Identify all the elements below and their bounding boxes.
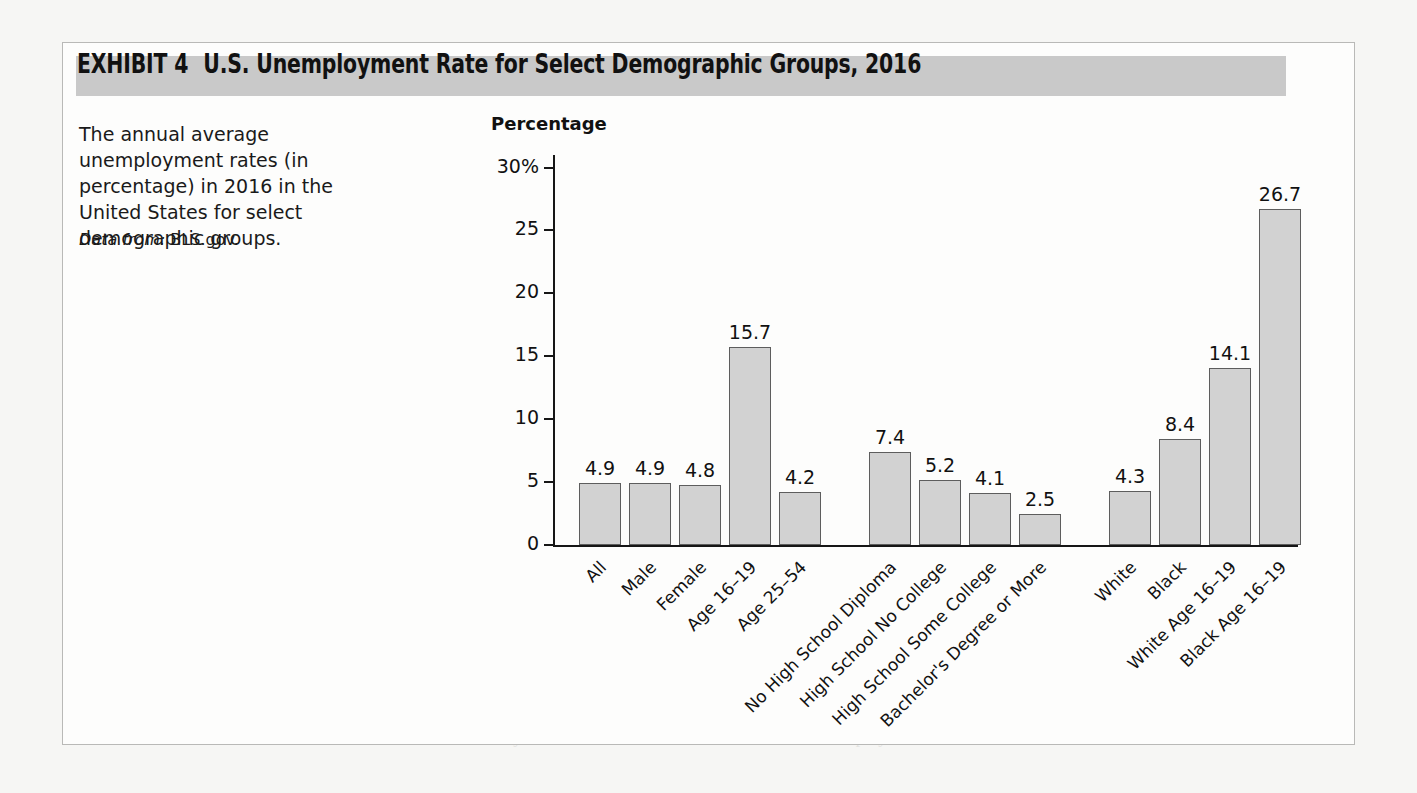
bar-value-label: 4.3 <box>1095 465 1165 487</box>
x-axis-category-label: Black <box>1143 557 1190 604</box>
bar-value-label: 2.5 <box>1005 488 1075 510</box>
bar <box>1159 439 1201 545</box>
y-axis-tick <box>544 544 553 546</box>
y-axis-tick-label: 15 <box>477 343 539 365</box>
source-value: BLS.gov. <box>170 230 238 249</box>
y-axis-tick-label: 30% <box>477 155 539 177</box>
bar-value-label: 8.4 <box>1145 413 1215 435</box>
y-axis-tick-label: 25 <box>477 217 539 239</box>
y-axis-tick-label: 10 <box>477 406 539 428</box>
x-axis-category-label: Male <box>618 557 661 600</box>
bar-value-label: 4.1 <box>955 467 1025 489</box>
bar <box>779 492 821 545</box>
bar <box>1109 491 1151 545</box>
exhibit-source: Data from: BLS.gov. <box>79 230 359 249</box>
bar <box>1019 514 1061 545</box>
y-axis-tick-label: 20 <box>477 280 539 302</box>
bar <box>1259 209 1301 545</box>
exhibit-title: EXHIBIT 4U.S. Unemployment Rate for Sele… <box>77 48 921 79</box>
y-axis-tick-label: 5 <box>477 469 539 491</box>
bar-value-label: 15.7 <box>715 321 785 343</box>
bar-value-label: 14.1 <box>1195 342 1265 364</box>
y-axis-title: Percentage <box>491 113 607 134</box>
x-axis-line <box>553 545 1298 547</box>
bar-value-label: 7.4 <box>855 426 925 448</box>
bar <box>1209 368 1251 545</box>
y-axis-tick <box>544 481 553 483</box>
y-axis-tick <box>544 167 553 169</box>
exhibit-title-text: U.S. Unemployment Rate for Select Demogr… <box>203 48 921 79</box>
y-axis-tick <box>544 292 553 294</box>
y-axis-tick <box>544 229 553 231</box>
bar-value-label: 4.8 <box>665 459 735 481</box>
bar <box>629 483 671 545</box>
bar-value-label: 26.7 <box>1245 183 1315 205</box>
source-prefix: Data from: <box>79 230 165 249</box>
y-axis-line <box>553 155 555 545</box>
y-axis-tick-label: 0 <box>477 532 539 554</box>
bar <box>679 485 721 545</box>
bar-chart: Percentage 30%25201510504.9All4.9Male4.8… <box>363 113 1338 713</box>
y-axis-tick <box>544 418 553 420</box>
bar-value-label: 4.2 <box>765 466 835 488</box>
y-axis-tick <box>544 355 553 357</box>
exhibit-number: EXHIBIT 4 <box>77 48 188 79</box>
x-axis-category-label: White <box>1091 557 1140 606</box>
bar <box>579 483 621 545</box>
plot-area: 30%25201510504.9All4.9Male4.8Female15.7A… <box>553 155 1298 545</box>
exhibit-panel: EXHIBIT 4U.S. Unemployment Rate for Sele… <box>62 42 1355 745</box>
x-axis-category-label: All <box>581 557 610 586</box>
bar <box>729 347 771 545</box>
